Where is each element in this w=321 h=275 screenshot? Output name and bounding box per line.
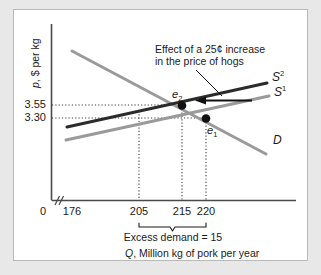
curve-label-s2-text: S — [272, 70, 280, 84]
y-tick-label-330: 3.30 — [12, 111, 46, 123]
equilibrium-label-e2-subscript: 2 — [178, 94, 182, 103]
x-tick-label-176: 176 — [58, 205, 86, 217]
equilibrium-dot-e1 — [202, 114, 211, 123]
equilibrium-label-e2: e2 — [172, 88, 182, 104]
curve-label-s2: S2 — [272, 70, 284, 84]
shift-annotation-line-1: Effect of a 25¢ increase — [155, 44, 265, 56]
shift-annotation-line-2: in the price of hogs — [155, 56, 265, 68]
figure-panel: p, $ per kg 3.55 3.30 0 176 205 215 220 … — [13, 9, 308, 261]
x-axis-title-units: , Million kg of pork per year — [133, 247, 259, 259]
x-axis-title: Q, Million kg of pork per year — [125, 248, 259, 260]
curve-label-s1: S1 — [274, 85, 286, 99]
x-tick-label-205: 205 — [125, 205, 153, 217]
shift-annotation-text: Effect of a 25¢ increase in the price of… — [155, 44, 265, 68]
x-tick-label-0: 0 — [35, 205, 51, 217]
x-axis-title-symbol: Q — [125, 247, 133, 259]
excess-demand-label: Excess demand = 15 — [112, 232, 234, 244]
curve-label-d: D — [273, 134, 282, 147]
supply-curve-s2 — [67, 83, 267, 127]
curve-label-s1-text: S — [274, 85, 282, 99]
equilibrium-label-e1: e1 — [207, 124, 217, 140]
x-tick-label-220: 220 — [192, 205, 220, 217]
y-tick-label-355: 3.55 — [12, 98, 46, 110]
y-axis-title: p, $ per kg — [30, 38, 42, 88]
y-axis-title-symbol: p — [29, 82, 41, 88]
curve-label-s1-superscript: 1 — [282, 84, 286, 93]
annotation-leader-line — [196, 70, 222, 96]
excess-demand-brace-icon — [139, 223, 206, 231]
supply-demand-chart: p, $ per kg 3.55 3.30 0 176 205 215 220 … — [14, 10, 309, 262]
curve-label-s2-superscript: 2 — [280, 69, 284, 78]
guide-lines-group — [52, 105, 206, 200]
y-axis-title-units: , $ per kg — [29, 38, 41, 82]
equilibrium-label-e1-subscript: 1 — [213, 130, 217, 139]
